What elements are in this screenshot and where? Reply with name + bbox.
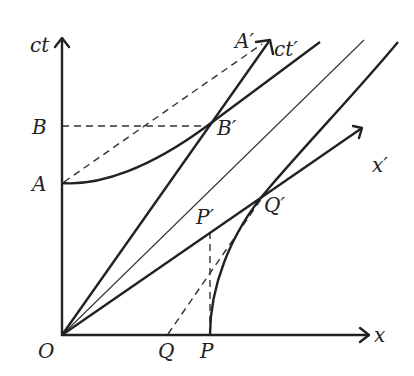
point-A-prime-label: A′ — [233, 29, 254, 53]
ct-prime-axis-label: ct′ — [274, 37, 298, 61]
point-P-label: P — [199, 339, 214, 363]
point-B-prime-label: B′ — [216, 116, 237, 140]
spacetime-diagram: ct x ct′ x′ O A B A′ B′ P Q P′ Q′ — [0, 0, 414, 376]
point-B-label: B — [31, 115, 47, 139]
point-Q-prime-label: Q′ — [264, 193, 285, 217]
x-prime-axis-label: x′ — [372, 153, 388, 177]
point-P-prime-label: P′ — [195, 205, 214, 229]
x-axis-label: x — [374, 323, 385, 347]
point-Q-label: Q — [158, 339, 174, 363]
timelike-hyperbola — [62, 42, 320, 183]
point-A-label: A — [30, 172, 46, 196]
origin-label: O — [38, 339, 54, 363]
dashed-A-to-A-prime — [64, 44, 262, 182]
light-cone-line — [62, 40, 364, 335]
ct-prime-axis — [62, 40, 270, 335]
ct-axis-label: ct — [30, 33, 50, 57]
dashed-Q-to-Q-prime — [168, 192, 266, 334]
